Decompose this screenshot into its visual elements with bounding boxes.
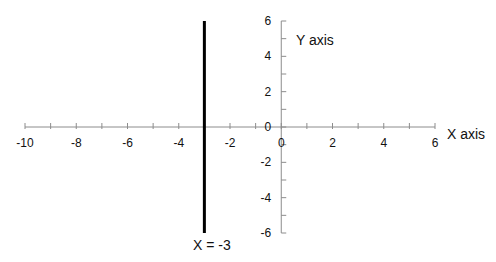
x-tick-label: -6 xyxy=(122,136,133,150)
x-tick-label: -8 xyxy=(71,136,82,150)
y-tick-label: -2 xyxy=(261,155,272,169)
y-tick-label: 0 xyxy=(265,120,272,134)
x-tick-label: 2 xyxy=(329,136,336,150)
x-tick-label: -10 xyxy=(16,136,34,150)
x-tick-label: 4 xyxy=(380,136,387,150)
y-tick-label: 4 xyxy=(265,49,272,63)
y-tick-label: 6 xyxy=(265,14,272,28)
y-tick-label: -4 xyxy=(261,191,272,205)
x-axis-title: X axis xyxy=(447,126,485,142)
y-tick-label: 2 xyxy=(265,85,272,99)
x-axis xyxy=(25,123,435,129)
line-label: X = -3 xyxy=(193,237,231,253)
chart: -10-8-6-4-20246 -6-4-20246 X axis Y axis… xyxy=(0,0,496,262)
y-axis xyxy=(281,21,286,233)
x-tick-label: -2 xyxy=(225,136,236,150)
x-tick-label: -4 xyxy=(173,136,184,150)
y-axis-title: Y axis xyxy=(296,32,334,48)
x-tick-labels: -10-8-6-4-20246 xyxy=(16,136,438,150)
y-tick-label: -6 xyxy=(261,226,272,240)
x-tick-label: 6 xyxy=(432,136,439,150)
x-tick-label: 0 xyxy=(278,136,285,150)
